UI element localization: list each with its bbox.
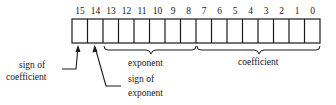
- sign-of-coefficient-label-line1: sign of: [19, 60, 46, 70]
- sign-of-exponent-label-line2: exponent: [128, 88, 163, 98]
- bit-number-8: 8: [186, 6, 191, 16]
- bit-number-6: 6: [217, 6, 222, 16]
- bit-number-13: 13: [106, 6, 116, 16]
- sign-of-coefficient-label-line2: coefficient: [6, 72, 47, 82]
- sign-of-exponent-label-line1: sign of: [128, 74, 155, 84]
- bit-number-10: 10: [153, 6, 163, 16]
- bit-number-15: 15: [75, 6, 85, 16]
- bit-number-1: 1: [295, 6, 300, 16]
- bit-number-3: 3: [264, 6, 269, 16]
- bit-layout-diagram: 15 14 13 12 11 10 9 8 7 6 5 4 3 2 1 0: [0, 0, 336, 105]
- bit-number-7: 7: [202, 6, 207, 16]
- bit-number-14: 14: [91, 6, 101, 16]
- bit-number-5: 5: [233, 6, 238, 16]
- bit-number-2: 2: [279, 6, 284, 16]
- exponent-brace: [104, 46, 196, 54]
- bit-number-9: 9: [171, 6, 176, 16]
- bit-number-11: 11: [137, 6, 146, 16]
- bit-number-4: 4: [248, 6, 253, 16]
- exponent-label: exponent: [128, 58, 163, 68]
- coefficient-brace: [197, 46, 320, 54]
- register-cells: [72, 19, 320, 43]
- bit-number-12: 12: [122, 6, 132, 16]
- bit-number-0: 0: [310, 6, 315, 16]
- sign-of-coefficient-arrow: [62, 45, 81, 69]
- sign-of-exponent-arrow: [93, 45, 122, 86]
- coefficient-label: coefficient: [238, 57, 279, 67]
- bit-number-labels: 15 14 13 12 11 10 9 8 7 6 5 4 3 2 1 0: [75, 6, 315, 16]
